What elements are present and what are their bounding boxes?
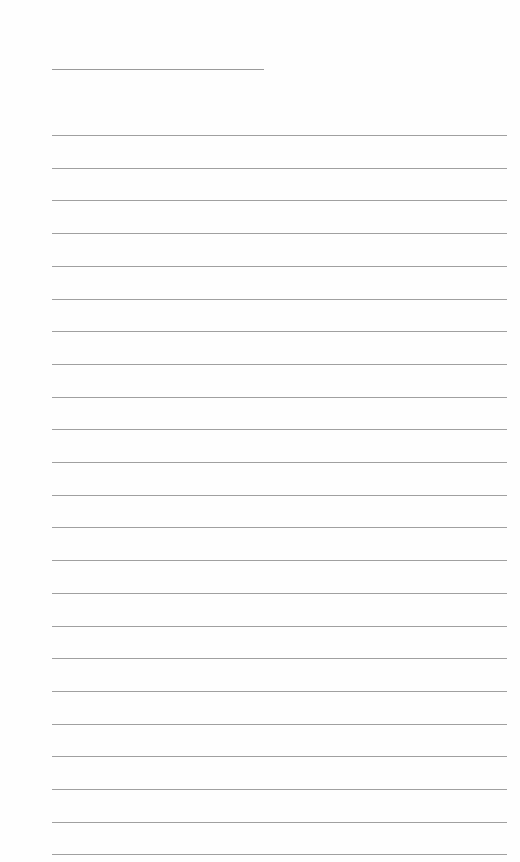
ruled-line xyxy=(52,397,507,398)
lined-page xyxy=(0,0,520,862)
ruled-line xyxy=(52,331,507,332)
ruled-line xyxy=(52,560,507,561)
ruled-line xyxy=(52,200,507,201)
ruled-line xyxy=(52,299,507,300)
ruled-line xyxy=(52,527,507,528)
title-line xyxy=(52,69,264,70)
ruled-line xyxy=(52,462,507,463)
ruled-line xyxy=(52,495,507,496)
ruled-line xyxy=(52,626,507,627)
ruled-line xyxy=(52,756,507,757)
ruled-line xyxy=(52,135,507,136)
ruled-line xyxy=(52,822,507,823)
ruled-line xyxy=(52,854,507,855)
ruled-line xyxy=(52,266,507,267)
ruled-line xyxy=(52,168,507,169)
ruled-line xyxy=(52,233,507,234)
ruled-line xyxy=(52,691,507,692)
ruled-line xyxy=(52,724,507,725)
ruled-line xyxy=(52,364,507,365)
ruled-line xyxy=(52,658,507,659)
ruled-line xyxy=(52,429,507,430)
ruled-line xyxy=(52,593,507,594)
ruled-line xyxy=(52,789,507,790)
